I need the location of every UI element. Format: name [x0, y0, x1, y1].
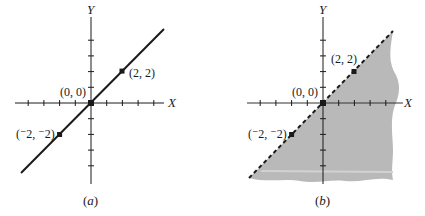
caption-b: (b): [315, 193, 330, 208]
label-2-2: (2, 2): [129, 66, 155, 80]
y-axis-label: Y: [319, 2, 328, 17]
label-neg2-neg2: (⁻2, ⁻2): [16, 127, 55, 141]
label-origin: (0, 0): [60, 85, 86, 99]
shaded-region: [249, 31, 399, 182]
x-axis-label: X: [403, 95, 413, 110]
x-axis-label: X: [167, 95, 177, 110]
point-2-2: [120, 69, 125, 74]
label-neg2-neg2: (⁻2, ⁻2): [248, 127, 287, 141]
label-origin: (0, 0): [292, 85, 318, 99]
point-origin: [320, 100, 326, 106]
panel-b: Y X (0, 0) (2, 2) (⁻2, ⁻2) (b): [247, 2, 413, 208]
panel-a: Y X (0, 0) (2, 2) (⁻2, ⁻2) (a): [15, 2, 177, 208]
point-neg2-neg2: [289, 132, 294, 137]
caption-a: (a): [83, 193, 98, 208]
point-origin: [88, 100, 94, 106]
y-axis-label: Y: [87, 2, 96, 17]
point-2-2: [352, 69, 357, 74]
label-2-2: (2, 2): [331, 52, 357, 66]
point-neg2-neg2: [57, 132, 62, 137]
figure-canvas: Y X (0, 0) (2, 2) (⁻2, ⁻2) (a): [0, 0, 425, 216]
